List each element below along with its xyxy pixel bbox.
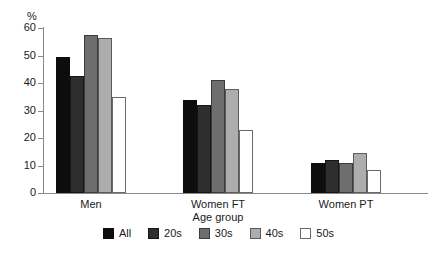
legend-item-all[interactable]: All xyxy=(103,228,131,239)
legend-label: All xyxy=(119,228,131,239)
y-axis-tick-label-text: 30 xyxy=(14,105,36,116)
bar-women-ft-50s xyxy=(239,130,253,193)
bar-women-pt-40s xyxy=(353,153,367,193)
y-axis-tick-label-text: 0 xyxy=(14,187,36,198)
legend-label: 40s xyxy=(266,228,284,239)
y-axis-tick-label-text: 50 xyxy=(14,50,36,61)
bar-men-50s xyxy=(112,97,126,193)
bar-men-30s xyxy=(84,35,98,193)
x-axis-group-label-women-pt: Women PT xyxy=(301,198,391,211)
plot-area xyxy=(43,28,428,193)
bar-women-ft-40s xyxy=(225,89,239,194)
bar-women-ft-30s xyxy=(211,80,225,193)
y-axis-tick-label: 10 xyxy=(10,160,36,171)
y-axis-tick-label-text: 10 xyxy=(14,160,36,171)
legend-swatch-icon xyxy=(148,228,159,239)
y-axis-tick-label: 0 xyxy=(10,187,36,198)
y-axis-tick xyxy=(38,193,43,194)
y-axis-tick-label: 40 xyxy=(10,77,36,88)
legend-label: 30s xyxy=(215,228,233,239)
bar-women-ft-20s xyxy=(197,105,211,193)
legend-item-30s[interactable]: 30s xyxy=(199,228,233,239)
bar-women-pt-all xyxy=(311,163,325,193)
legend-label: 50s xyxy=(316,228,334,239)
y-axis-tick-label: 30 xyxy=(10,105,36,116)
chart-legend: All20s30s40s50s xyxy=(0,228,437,239)
y-axis-tick-label-text: 40 xyxy=(14,77,36,88)
bar-men-20s xyxy=(70,76,84,193)
y-axis-tick-label: 60 xyxy=(10,22,36,33)
legend-swatch-icon xyxy=(103,228,114,239)
bar-chart: % 0102030405060 MenWomen FTWomen PT Age … xyxy=(0,0,437,254)
bar-men-all xyxy=(56,57,70,193)
legend-item-40s[interactable]: 40s xyxy=(250,228,284,239)
legend-swatch-icon xyxy=(250,228,261,239)
bar-men-40s xyxy=(98,38,112,193)
legend-swatch-icon xyxy=(199,228,210,239)
legend-item-50s[interactable]: 50s xyxy=(300,228,334,239)
bar-women-ft-all xyxy=(183,100,197,194)
legend-swatch-icon xyxy=(300,228,311,239)
y-axis-tick-label: 50 xyxy=(10,50,36,61)
bar-women-pt-20s xyxy=(325,160,339,193)
x-axis-line xyxy=(43,193,428,194)
legend-label: 20s xyxy=(164,228,182,239)
bar-women-pt-30s xyxy=(339,163,353,193)
y-axis-tick-label: 20 xyxy=(10,132,36,143)
y-axis-tick-label-text: 20 xyxy=(14,132,36,143)
bar-women-pt-50s xyxy=(367,170,381,193)
x-axis-group-label-women-ft: Women FT xyxy=(173,198,263,211)
legend-item-20s[interactable]: 20s xyxy=(148,228,182,239)
y-axis-tick-label-text: 60 xyxy=(14,22,36,33)
x-axis-group-label-men: Men xyxy=(46,198,136,211)
x-axis-title: Age group xyxy=(173,211,263,224)
